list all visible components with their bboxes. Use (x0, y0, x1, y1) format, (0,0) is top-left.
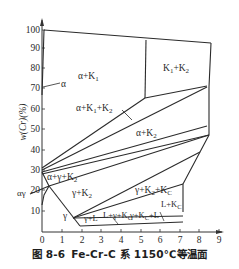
boundary-agk2-upper (42, 135, 209, 174)
figure-title: Fe-Cr-C 系 1150℃等温面 (71, 248, 207, 260)
x-tick-label: 0 (40, 235, 45, 245)
y-axis-arrow-icon (40, 18, 44, 26)
label-l-gamma-kc: L+γ+KC (103, 210, 132, 221)
boundary-k1k2-left (145, 40, 146, 98)
label-l-kc: L+KC (161, 199, 181, 210)
y-tick-label: 90 (31, 43, 41, 53)
x-tick-label: 7 (178, 235, 183, 245)
label-gamma-kc-l: γ+KC+L (129, 210, 159, 221)
boundary-a-k2-lower (42, 126, 207, 172)
y-tick-label: 10 (31, 206, 41, 216)
label-alpha-k1-k2: α+K1+K2 (76, 103, 113, 115)
label-gamma-k2: γ+K2 (71, 188, 92, 200)
y-tick-label: 70 (31, 83, 41, 93)
label-alpha: α (61, 79, 66, 89)
boundary-a-k2-upper (42, 87, 207, 170)
x-tick-labels: 0 1 2 3 4 5 6 7 8 9 (40, 235, 222, 245)
x-tick-label: 4 (119, 235, 124, 245)
boundary-gamma-mid (30, 135, 209, 194)
label-alpha-k2: α+K2 (136, 128, 157, 140)
ak1k2-leader (122, 110, 132, 120)
x-tick-label: 2 (80, 235, 85, 245)
figure-caption: 图 8-6Fe-Cr-C 系 1150℃等温面 (0, 246, 239, 261)
phase-diagram: 10 20 30 40 50 60 70 80 90 100 0 1 2 3 4… (0, 0, 239, 245)
figure-number: 图 8-6 (32, 248, 66, 260)
x-tick-label: 5 (139, 235, 144, 245)
label-alpha-gamma: αγ (17, 188, 26, 198)
y-tick-label: 30 (31, 165, 41, 175)
phase-boundaries (30, 30, 211, 226)
x-axis-arrow-icon (216, 230, 224, 234)
y-tick-label: 80 (31, 63, 41, 73)
y-tick-label: 60 (31, 104, 41, 114)
x-tick-label: 8 (197, 235, 202, 245)
label-gamma: γ (62, 211, 67, 221)
y-tick-label: 40 (31, 145, 41, 155)
y-axis-title: w(Cr)(%) (18, 104, 29, 141)
x-tick-label: 6 (158, 235, 163, 245)
x-tick-label: 3 (99, 235, 104, 245)
label-k1-k2: K1+K2 (163, 63, 190, 75)
x-tick-label: 9 (217, 235, 222, 245)
y-tick-label: 100 (26, 25, 41, 35)
x-tick-label: 1 (60, 235, 65, 245)
label-gamma-k2-kc: γ+K2+KC (134, 185, 172, 197)
alpha-leader (43, 83, 60, 87)
y-tick-label: 50 (31, 124, 41, 134)
axes (40, 18, 224, 234)
boundary-top (44, 30, 211, 43)
label-alpha-k1: α+K1 (78, 71, 99, 83)
label-gamma-l: γ+L (83, 213, 98, 223)
